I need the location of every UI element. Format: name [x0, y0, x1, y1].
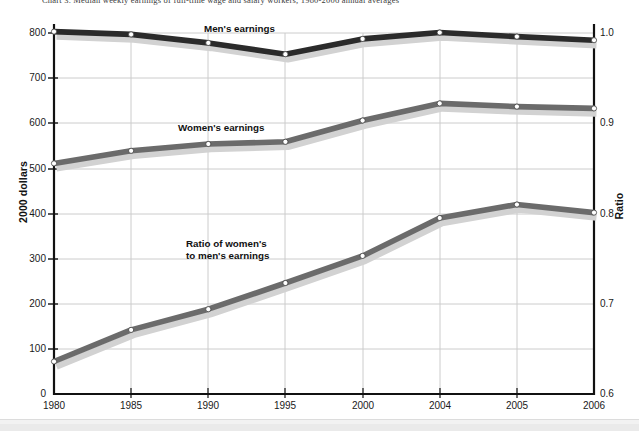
data-point [591, 106, 596, 111]
page-footer-bar-inner [0, 424, 639, 431]
data-point [591, 38, 596, 43]
data-point [514, 202, 519, 207]
data-point [514, 104, 519, 109]
series-line-2 [54, 205, 594, 362]
ytick-left-600: 600 [12, 117, 46, 128]
data-point [206, 307, 211, 312]
mens-earnings-label: Men's earnings [204, 23, 275, 35]
data-point [360, 253, 365, 258]
data-point [514, 34, 519, 39]
xtick-2000: 2000 [338, 400, 388, 411]
data-point [51, 161, 56, 166]
data-point [437, 30, 442, 35]
data-point [283, 139, 288, 144]
data-point [51, 29, 56, 34]
data-point [283, 52, 288, 57]
xtick-1990: 1990 [183, 400, 233, 411]
xtick-2006: 2006 [569, 400, 619, 411]
data-point [129, 327, 134, 332]
data-point [437, 101, 442, 106]
series-shadows [57, 37, 597, 367]
data-point [283, 280, 288, 285]
data-point [591, 210, 596, 215]
data-point [129, 32, 134, 37]
ytick-left-700: 700 [12, 72, 46, 83]
ytick-right-0_9: 0.9 [600, 117, 639, 128]
xtick-1980: 1980 [29, 400, 79, 411]
ytick-right-1_0: 1.0 [600, 27, 639, 38]
ytick-left-300: 300 [12, 253, 46, 264]
y-axis-left-title: 2000 dollars [17, 147, 29, 237]
ratio-label-line1: Ratio of women's [186, 238, 267, 250]
series-shadow-1 [57, 108, 597, 168]
data-point [206, 40, 211, 45]
series-markers [51, 29, 596, 364]
ytick-right-0_7: 0.7 [600, 298, 639, 309]
ytick-left-200: 200 [12, 298, 46, 309]
data-point [437, 215, 442, 220]
ytick-left-100: 100 [12, 343, 46, 354]
ytick-left-0: 0 [12, 388, 46, 399]
series-shadow-2 [57, 210, 597, 367]
xtick-2004: 2004 [415, 400, 465, 411]
data-point [206, 141, 211, 146]
y-axis-right-title: Ratio [613, 176, 625, 236]
ytick-right-0_6: 0.6 [600, 388, 639, 399]
series-lines [54, 32, 594, 362]
ratio-label-line2: to men's earnings [186, 250, 269, 262]
data-point [360, 36, 365, 41]
data-point [51, 359, 56, 364]
data-point [129, 148, 134, 153]
womens-earnings-label: Women's earnings [178, 122, 265, 134]
xtick-2005: 2005 [492, 400, 542, 411]
xtick-1985: 1985 [106, 400, 156, 411]
xtick-1995: 1995 [260, 400, 310, 411]
page-footer-bar [0, 419, 639, 431]
data-point [360, 118, 365, 123]
ytick-left-800: 800 [12, 27, 46, 38]
